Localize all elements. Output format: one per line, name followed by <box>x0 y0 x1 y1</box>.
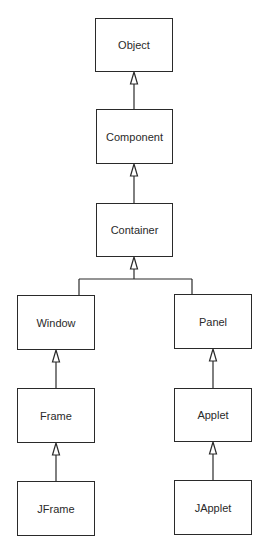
class-box-jframe: JFrame <box>17 481 95 536</box>
inheritance-edges <box>0 0 266 552</box>
class-label: Applet <box>197 409 228 421</box>
class-label: Container <box>111 224 159 236</box>
class-box-object: Object <box>95 18 173 72</box>
class-label: Panel <box>199 316 227 328</box>
class-label: Window <box>36 317 75 329</box>
class-label: JFrame <box>37 503 74 515</box>
class-box-applet: Applet <box>174 388 252 442</box>
class-box-frame: Frame <box>17 388 95 443</box>
arrowhead-icon <box>53 443 60 455</box>
class-box-japplet: JApplet <box>174 480 252 535</box>
arrowhead-icon <box>210 442 217 454</box>
class-label: Frame <box>40 410 72 422</box>
arrowhead-icon <box>131 72 138 84</box>
arrowhead-icon <box>131 257 138 269</box>
class-label: JApplet <box>195 502 232 514</box>
class-label: Component <box>106 131 163 143</box>
class-box-component: Component <box>96 109 173 164</box>
arrowhead-icon <box>210 349 217 361</box>
class-box-window: Window <box>17 295 95 350</box>
class-box-panel: Panel <box>174 294 252 349</box>
arrowhead-icon <box>53 350 60 362</box>
class-box-container: Container <box>96 203 173 257</box>
arrowhead-icon <box>131 164 138 176</box>
class-label: Object <box>118 39 150 51</box>
